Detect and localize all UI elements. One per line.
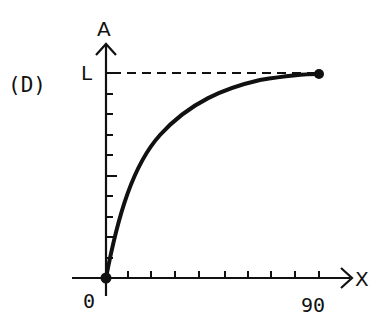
end-point-marker: [314, 69, 324, 79]
y-axis-label: A: [97, 17, 111, 41]
x-tick-label-90: 90: [301, 293, 325, 317]
panel-label: (D): [8, 73, 46, 97]
y-tick-label-L: L: [81, 61, 93, 85]
data-curve: [106, 74, 319, 278]
x-tick-label-0: 0: [83, 289, 95, 313]
x-axis-label: X: [355, 267, 369, 291]
start-point-marker: [101, 273, 112, 284]
chart-canvas: (D) A X 0 90 L: [0, 0, 379, 325]
